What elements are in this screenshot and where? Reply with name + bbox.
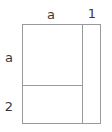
outer-rectangle — [22, 24, 101, 124]
left-label-2: 2 — [5, 100, 13, 113]
vertical-divider — [82, 24, 83, 124]
top-label-a: a — [47, 8, 55, 21]
left-label-a: a — [5, 51, 13, 64]
top-label-1: 1 — [88, 7, 96, 20]
horizontal-divider — [22, 85, 82, 86]
